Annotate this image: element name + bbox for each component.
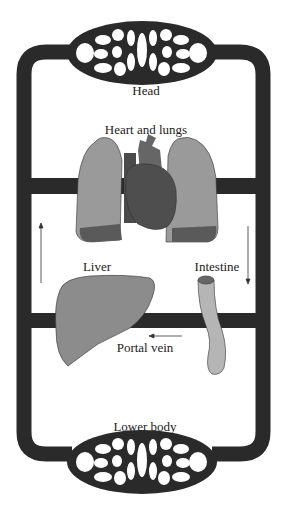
label-lower-body: Lower body bbox=[113, 420, 176, 433]
heart bbox=[124, 134, 176, 230]
arrow-up-icon bbox=[39, 223, 43, 283]
label-heart-lungs: Heart and lungs bbox=[105, 123, 187, 136]
label-liver: Liver bbox=[83, 260, 111, 273]
label-head: Head bbox=[132, 84, 159, 97]
head-capillary-bed bbox=[67, 21, 217, 85]
lower-body-capillary-bed bbox=[67, 430, 217, 494]
label-intestine: Intestine bbox=[195, 260, 240, 273]
vessel-loop bbox=[24, 52, 263, 454]
arrow-left-icon bbox=[149, 334, 182, 338]
label-portal-vein: Portal vein bbox=[117, 341, 174, 354]
arrow-down-icon bbox=[246, 226, 250, 284]
